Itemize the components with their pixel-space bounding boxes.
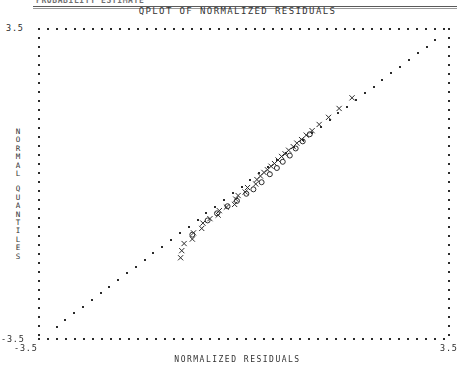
y-axis-max-label: 3.5 bbox=[6, 23, 24, 33]
y-axis-title: NORMALQUANTILES bbox=[10, 128, 26, 261]
y-axis-title-char: L bbox=[10, 170, 26, 178]
chart-title: QPLOT OF NORMALIZED RESIDUALS bbox=[0, 6, 475, 16]
x-axis-title: NORMALIZED RESIDUALS bbox=[0, 355, 475, 364]
scatter-plot-canvas bbox=[38, 28, 450, 340]
y-axis-title-word: NORMAL bbox=[10, 128, 26, 178]
y-axis-title-char: S bbox=[10, 253, 26, 261]
y-axis-title-word: QUANTILES bbox=[10, 185, 26, 261]
x-axis-max-label: 3.5 bbox=[440, 343, 458, 353]
x-axis-min-label: -3.5 bbox=[14, 343, 38, 353]
plot-area bbox=[38, 28, 450, 340]
document-header-text: PROBABILITY ESTIMATE bbox=[36, 0, 144, 5]
